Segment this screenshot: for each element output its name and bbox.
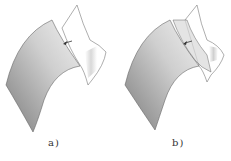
panel-b: b)	[115, 0, 230, 161]
caption-b: b)	[172, 137, 184, 148]
caption-a: a)	[48, 137, 60, 148]
panel-a: a)	[0, 0, 115, 161]
